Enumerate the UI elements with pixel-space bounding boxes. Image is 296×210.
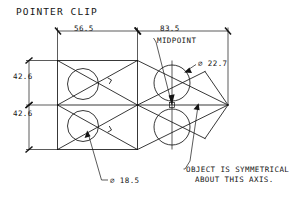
leader-symmetry-note: [184, 103, 200, 169]
technical-drawing-canvas: POINTER CLIP 56.5 83.5 42.6 42.6 MIDPOIN…: [0, 0, 296, 210]
dimension-line-top-left: [55, 28, 141, 35]
dimension-label-top-right: 83.5: [160, 25, 180, 34]
leader-diameter-large: [184, 65, 196, 74]
hole-lower-left-circle: [68, 111, 99, 142]
extension-lines: [26, 28, 228, 150]
dimension-label-top-left: 56.5: [74, 25, 94, 34]
note-symmetry-line-2: ABOUT THIS AXIS.: [186, 175, 289, 185]
dimension-label-left-lower: 42.6: [13, 110, 33, 119]
dimension-label-left-upper: 42.6: [13, 73, 33, 82]
dimension-line-top-right: [135, 28, 231, 35]
label-diameter-small: ∅ 18.5: [110, 177, 140, 186]
leader-diameter-small: [85, 131, 108, 181]
dimension-line-left-upper: [26, 58, 33, 109]
label-diameter-large: ∅ 22.7: [198, 60, 228, 69]
hole-upper-left-circle: [68, 69, 99, 100]
leader-midpoint: [154, 38, 175, 105]
note-symmetry: OBJECT IS SYMMETRICALABOUT THIS AXIS.: [186, 165, 289, 185]
note-symmetry-line-1: OBJECT IS SYMMETRICAL: [186, 165, 289, 174]
label-midpoint: MIDPOINT: [157, 37, 196, 46]
drawing-title: POINTER CLIP: [16, 7, 98, 18]
